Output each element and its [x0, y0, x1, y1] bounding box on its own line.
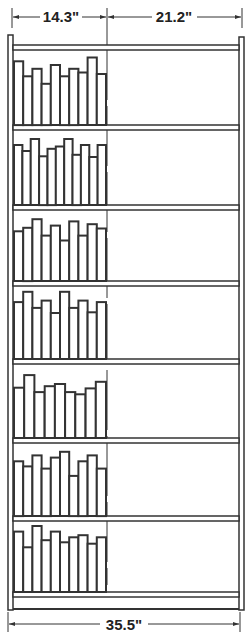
book — [96, 382, 106, 438]
top-board — [13, 45, 239, 50]
book — [69, 308, 78, 359]
book — [23, 547, 32, 592]
book — [14, 145, 22, 205]
book — [88, 312, 97, 359]
book — [51, 65, 60, 125]
book — [24, 375, 34, 438]
book — [14, 532, 23, 592]
open-width-label: 21.2" — [156, 8, 192, 25]
book — [69, 69, 78, 125]
total-width-label: 35.5" — [106, 616, 142, 633]
book — [60, 452, 69, 516]
arrow-head-icon — [108, 15, 114, 19]
book — [78, 73, 87, 126]
occupied-width-label: 14.3" — [43, 8, 79, 25]
book — [14, 388, 24, 438]
book — [88, 224, 97, 281]
book — [56, 147, 64, 206]
book — [32, 526, 41, 592]
book — [23, 76, 32, 125]
book — [73, 155, 81, 205]
book — [78, 535, 87, 592]
book — [14, 461, 23, 516]
book — [42, 84, 51, 125]
book — [32, 308, 41, 359]
book — [42, 469, 51, 516]
bottom-dimension: 35.5" — [8, 612, 240, 633]
book — [60, 292, 69, 359]
bookshelf-diagram: 14.3" 21.2" 35.5" — [0, 0, 249, 640]
book — [97, 74, 106, 125]
arrow-head-icon — [235, 15, 241, 19]
book — [69, 476, 78, 516]
book — [51, 532, 60, 592]
book — [97, 229, 106, 282]
right-post — [239, 37, 244, 610]
book — [88, 58, 97, 126]
book — [60, 542, 69, 592]
book — [32, 69, 41, 125]
book — [48, 149, 56, 205]
book — [51, 226, 60, 281]
book — [55, 384, 65, 438]
book — [64, 139, 72, 205]
book — [78, 236, 87, 281]
book — [65, 392, 75, 438]
book — [51, 313, 60, 359]
book — [97, 537, 106, 592]
book — [39, 156, 47, 205]
book — [86, 388, 96, 438]
book — [97, 469, 106, 516]
arrow-head-icon — [13, 15, 19, 19]
book — [98, 145, 106, 205]
book — [31, 139, 39, 205]
book — [60, 241, 69, 282]
book — [69, 221, 78, 281]
book — [14, 231, 23, 281]
book — [51, 458, 60, 516]
book — [32, 219, 41, 281]
book — [69, 537, 78, 592]
arrow-head-icon — [100, 15, 106, 19]
book — [23, 292, 32, 359]
book — [42, 540, 51, 592]
book — [22, 151, 30, 205]
book — [88, 544, 97, 592]
book — [14, 302, 23, 359]
book — [32, 455, 41, 516]
book — [45, 386, 55, 438]
book — [34, 392, 44, 438]
book — [42, 236, 51, 281]
book — [78, 461, 87, 516]
book — [81, 145, 89, 205]
books — [14, 58, 106, 593]
left-post — [8, 35, 13, 610]
arrow-head-icon — [9, 622, 15, 626]
book — [89, 157, 97, 205]
book — [78, 301, 87, 359]
book — [14, 61, 23, 125]
book — [60, 76, 69, 125]
top-dimension: 14.3" 21.2" — [12, 8, 242, 40]
book — [75, 394, 85, 438]
book — [23, 228, 32, 281]
arrow-head-icon — [233, 622, 239, 626]
book — [23, 466, 32, 516]
book — [42, 301, 51, 359]
book — [88, 455, 97, 516]
book — [97, 302, 106, 359]
